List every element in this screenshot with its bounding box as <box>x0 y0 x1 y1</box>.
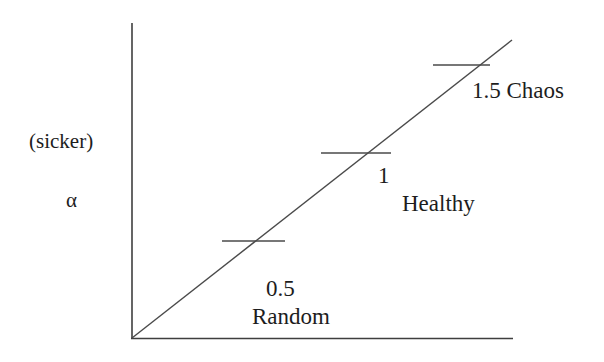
annotation-random: Random <box>252 305 330 328</box>
y-axis-note-label: (sicker) <box>29 131 93 152</box>
trend-line <box>132 40 512 338</box>
y-axis-symbol-label: α <box>66 190 77 211</box>
annotation-random-value: 0.5 <box>266 277 295 300</box>
annotation-chaos: 1.5 Chaos <box>472 79 564 102</box>
annotation-healthy: Healthy <box>402 192 475 215</box>
annotation-healthy-value: 1 <box>378 164 390 187</box>
figure-container: (sicker) α 1.5 Chaos 1 Healthy 0.5 Rando… <box>0 0 604 362</box>
